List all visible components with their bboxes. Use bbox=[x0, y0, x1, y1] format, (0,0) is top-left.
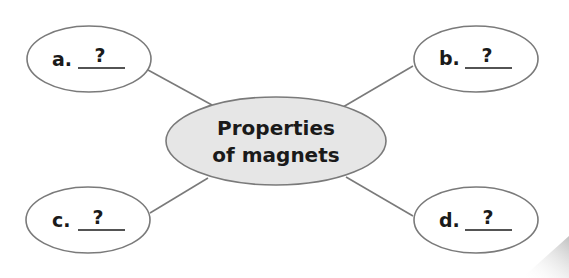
center-node-title-line2: of magnets bbox=[212, 143, 339, 167]
node-c-question-mark: ? bbox=[92, 206, 103, 228]
node-d-question-mark: ? bbox=[482, 206, 493, 228]
node-d-label: d. bbox=[439, 209, 460, 231]
connector-c bbox=[150, 178, 208, 213]
node-c[interactable]: c. ? bbox=[26, 187, 150, 253]
node-c-ellipse bbox=[26, 187, 150, 253]
node-a-ellipse bbox=[27, 26, 151, 92]
page-curl-shadow bbox=[522, 236, 569, 278]
node-c-label: c. bbox=[52, 209, 70, 231]
connector-a bbox=[148, 70, 212, 105]
node-b[interactable]: b. ? bbox=[414, 26, 538, 92]
node-b-question-mark: ? bbox=[481, 44, 492, 66]
center-node-ellipse bbox=[166, 97, 386, 185]
node-a-question-mark: ? bbox=[94, 44, 105, 66]
concept-web-diagram: Properties of magnets a. ? b. ? c. ? d. … bbox=[0, 0, 569, 278]
connector-d bbox=[346, 177, 413, 216]
center-node: Properties of magnets bbox=[166, 97, 386, 185]
node-d[interactable]: d. ? bbox=[414, 187, 538, 253]
connector-b bbox=[343, 66, 413, 107]
node-d-ellipse bbox=[414, 187, 538, 253]
node-a[interactable]: a. ? bbox=[27, 26, 151, 92]
node-a-label: a. bbox=[52, 48, 72, 70]
node-b-ellipse bbox=[414, 26, 538, 92]
node-b-label: b. bbox=[439, 47, 460, 69]
center-node-title-line1: Properties bbox=[217, 116, 335, 140]
